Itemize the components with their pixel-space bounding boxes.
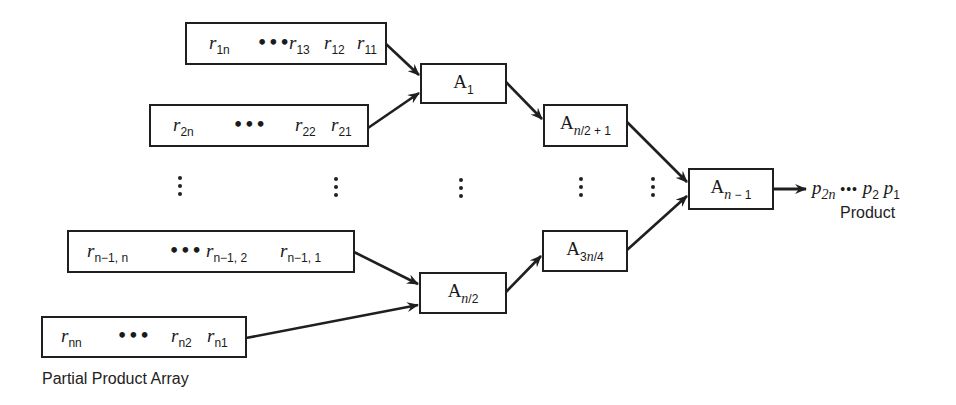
horizontal-ellipsis: •••: [257, 32, 291, 51]
adder-label: An − 1: [710, 176, 751, 203]
adder-label: A3n/4: [566, 238, 603, 265]
term-r-13: r13: [289, 31, 310, 56]
term-r-22: r22: [295, 113, 316, 138]
term-r-n1: rn1: [207, 325, 228, 350]
adder-label: A1: [453, 71, 473, 97]
term-r-1n: r1n: [209, 31, 230, 56]
vertical-ellipsis-icon: [334, 177, 338, 201]
edge-a3n4-to-an1: [627, 196, 687, 250]
vertical-ellipsis-icon: [579, 177, 583, 201]
adder-label: An/2: [448, 280, 479, 307]
term-r-21: r21: [331, 113, 352, 138]
edge-an2p1-to-an1: [627, 122, 687, 182]
term-r-12: r12: [324, 31, 345, 56]
term-r-n-1-2: rn−1, 2: [206, 239, 247, 264]
edge-row2-to-a1: [368, 93, 419, 128]
adder-label: An/2 + 1: [560, 112, 611, 139]
term-r-nn: rnn: [61, 325, 82, 350]
term-r-n-1-n: rn−1, n: [87, 239, 128, 264]
edge-an2-to-a3n4: [506, 256, 541, 292]
term-r-2n: r2n: [173, 113, 194, 138]
edge-rown-to-an2: [246, 305, 418, 338]
partial-product-row-1: r1n ••• r13 r12 r11: [185, 22, 387, 65]
term-r-n2: rn2: [171, 325, 192, 350]
horizontal-ellipsis: •••: [117, 326, 151, 345]
vertical-ellipsis-icon: [651, 177, 655, 201]
partial-product-array-label: Partial Product Array: [42, 370, 189, 388]
term-r-n-1-1: rn−1, 1: [280, 239, 321, 264]
partial-product-row-n: rnn ••• rn2 rn1: [41, 316, 247, 358]
partial-product-row-2: r2n ••• r22 r21: [149, 104, 369, 147]
edge-a1-to-an2p1: [506, 82, 542, 119]
adder-a-3n4: A3n/4: [542, 230, 628, 272]
edge-row1-to-a1: [386, 44, 419, 75]
adder-a1: A1: [420, 63, 507, 104]
horizontal-ellipsis: •••: [169, 240, 203, 259]
product-label: Product: [840, 204, 895, 222]
horizontal-ellipsis: •••: [233, 114, 267, 133]
adder-a-n2: An/2: [419, 272, 507, 314]
partial-product-row-n-minus-1: rn−1, n ••• rn−1, 2 rn−1, 1: [67, 230, 355, 273]
product-output: p2n ••• p2 p1: [812, 177, 900, 203]
vertical-ellipsis-icon: [459, 178, 463, 202]
adder-a-n2-plus-1: An/2 + 1: [543, 104, 628, 147]
term-r-11: r11: [357, 31, 377, 56]
vertical-ellipsis-icon: [178, 176, 182, 200]
adder-a-n-minus-1: An − 1: [688, 168, 774, 210]
edge-rown1-to-an2: [354, 252, 418, 284]
